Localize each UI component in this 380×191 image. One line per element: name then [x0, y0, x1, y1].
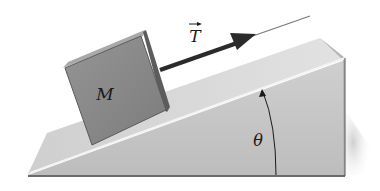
incline-shadow: [345, 110, 372, 175]
tension-label: T: [189, 26, 202, 46]
angle-label: θ: [253, 131, 263, 150]
tension-vector-shaft: [160, 42, 240, 70]
incline-diagram: M T θ: [0, 0, 380, 191]
tension-arrowhead-icon: [230, 33, 256, 50]
mass-label: M: [95, 84, 114, 104]
